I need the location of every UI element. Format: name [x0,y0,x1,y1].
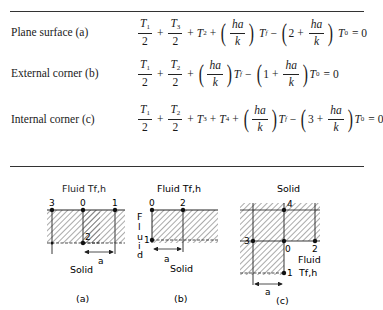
svg-text:Fluid Tf,h: Fluid Tf,h [157,183,201,194]
svg-text:(a): (a) [76,293,89,304]
svg-text:0: 0 [149,198,155,208]
svg-text:4: 4 [287,199,293,209]
svg-text:Tf,h: Tf,h [298,267,317,278]
svg-text:3: 3 [49,198,55,208]
svg-text:Solid: Solid [170,263,193,274]
svg-text:d: d [137,249,143,260]
svg-text:1: 1 [144,235,150,245]
svg-text:1: 1 [112,198,118,208]
svg-text:(c): (c) [276,295,289,306]
svg-text:Solid: Solid [70,264,93,275]
svg-text:0: 0 [285,244,291,254]
svg-text:a: a [265,287,271,297]
svg-text:2: 2 [312,244,318,254]
svg-text:Fluid Tf,h: Fluid Tf,h [62,183,106,194]
svg-text:Fluid: Fluid [298,254,321,265]
figure-c-internal-corner: Solid 4 3 0 2 1 Fluid Tf,h a (c) [240,183,321,306]
figure-a-plane-surface: Fluid Tf,h 3 0 1 2 a Solid (a) [47,183,125,304]
svg-text:1: 1 [287,268,293,278]
svg-text:0: 0 [80,198,86,208]
svg-text:3: 3 [244,236,250,246]
figure-b-external-corner: Fluid Tf,h 0 2 1 F l u i d Fluid a Solid… [0,0,218,304]
svg-text:2: 2 [180,198,186,208]
svg-text:2: 2 [85,232,91,242]
svg-text:(b): (b) [174,293,187,304]
svg-text:a: a [164,254,170,264]
svg-text:Solid: Solid [277,183,300,194]
svg-text:a: a [98,256,104,266]
